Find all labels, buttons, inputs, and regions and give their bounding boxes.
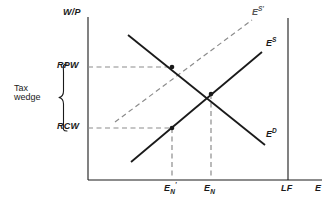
x-tick-en-subscript: N bbox=[210, 188, 215, 195]
curve-supply-shifted-superscript: S' bbox=[258, 5, 264, 12]
axis-lines bbox=[88, 17, 322, 180]
guide-lines bbox=[88, 67, 211, 180]
point-equilibrium-with-tax bbox=[170, 65, 175, 70]
tax-wedge-label: Tax wedge bbox=[14, 84, 41, 103]
x-tick-label-lf: LF bbox=[281, 184, 292, 193]
x-tick-label-en-prime: EN' bbox=[164, 184, 177, 193]
x-axis-label: E bbox=[315, 184, 321, 193]
curve-label-labour-demand: ED bbox=[266, 130, 277, 139]
x-tick-en-prime-subscript: N bbox=[170, 188, 175, 195]
y-tick-label-rpw: RPW bbox=[57, 61, 79, 70]
economics-diagram: W/P E RPW RCW EN' EN LF ED ES ES' Tax we… bbox=[0, 0, 335, 205]
curve-demand-superscript: D bbox=[272, 127, 277, 134]
point-equilibrium-no-tax bbox=[209, 92, 214, 97]
curve-label-labour-supply: ES bbox=[266, 39, 276, 48]
y-tick-label-rcw: RCW bbox=[57, 122, 79, 131]
x-tick-en-prime-superscript: ' bbox=[175, 181, 177, 188]
x-tick-label-en: EN bbox=[204, 184, 215, 193]
curve-supply-superscript: S bbox=[272, 36, 276, 43]
labour-supply-curve bbox=[131, 52, 262, 162]
labour-supply-shifted-curve bbox=[115, 20, 252, 122]
y-axis-label: W/P bbox=[63, 8, 81, 17]
diagram-canvas bbox=[0, 0, 335, 205]
curve-label-labour-supply-shifted: ES' bbox=[252, 8, 264, 17]
tax-wedge-line2: wedge bbox=[14, 93, 41, 102]
point-cost-of-worker bbox=[170, 126, 175, 131]
